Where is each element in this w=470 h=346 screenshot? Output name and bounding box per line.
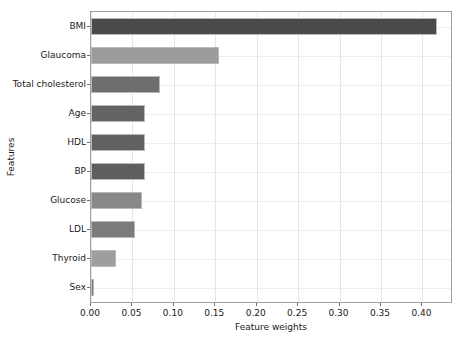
x-tick-label: 0.15	[204, 308, 224, 318]
x-tick-mark	[173, 303, 174, 306]
bar	[91, 192, 142, 210]
bar	[91, 279, 94, 297]
bar	[91, 134, 145, 152]
bar	[91, 47, 219, 65]
y-tick-label: Sex	[0, 282, 86, 292]
x-tick-mark	[214, 303, 215, 306]
y-tick-label: BMI	[0, 21, 86, 31]
y-tick-label: Age	[0, 108, 86, 118]
y-gridline	[91, 114, 451, 115]
x-tick-mark	[421, 303, 422, 306]
y-gridline	[91, 259, 451, 260]
y-axis-tick-labels: BMIGlaucomaTotal cholesterolAgeHDLBPGluc…	[0, 11, 86, 303]
x-tick-mark	[256, 303, 257, 306]
x-tick-mark	[90, 303, 91, 306]
y-tick-label: BP	[0, 166, 86, 176]
y-gridline	[91, 201, 451, 202]
x-tick-label: 0.00	[80, 308, 100, 318]
y-tick-label: HDL	[0, 137, 86, 147]
bar	[91, 105, 145, 123]
feature-importance-bar-chart: Features BMIGlaucomaTotal cholesterolAge…	[0, 0, 470, 346]
y-tick-label: Thyroid	[0, 253, 86, 263]
y-gridline	[91, 172, 451, 173]
x-tick-mark	[131, 303, 132, 306]
y-gridline	[91, 230, 451, 231]
x-tick-label: 0.30	[329, 308, 349, 318]
x-tick-label: 0.40	[411, 308, 431, 318]
x-tick-label: 0.35	[370, 308, 390, 318]
x-tick-mark	[339, 303, 340, 306]
y-tick-label: LDL	[0, 224, 86, 234]
y-tick-label: Glucose	[0, 195, 86, 205]
x-tick-label: 0.20	[246, 308, 266, 318]
bar	[91, 221, 135, 239]
x-tick-label: 0.10	[163, 308, 183, 318]
bar	[91, 76, 160, 94]
x-tick-label: 0.05	[121, 308, 141, 318]
x-axis-tick-labels: 0.000.050.100.150.200.250.300.350.40	[90, 303, 452, 323]
plot-area	[90, 11, 452, 303]
y-tick-label: Total cholesterol	[0, 79, 86, 89]
x-tick-mark	[297, 303, 298, 306]
x-axis-title: Feature weights	[90, 322, 452, 332]
bar	[91, 250, 116, 268]
y-gridline	[91, 143, 451, 144]
y-gridline	[91, 288, 451, 289]
bar	[91, 18, 437, 36]
bar	[91, 163, 145, 181]
y-tick-label: Glaucoma	[0, 50, 86, 60]
x-tick-label: 0.25	[287, 308, 307, 318]
x-tick-mark	[380, 303, 381, 306]
